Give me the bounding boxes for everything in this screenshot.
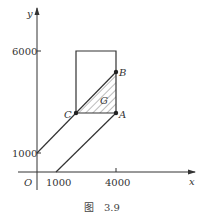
x-axis-label: x bbox=[189, 176, 195, 187]
point-c bbox=[74, 111, 78, 115]
point-b bbox=[114, 70, 118, 74]
figure-caption-prefix: 图 bbox=[84, 202, 94, 213]
figure-caption-number: 3.9 bbox=[104, 202, 120, 213]
point-label-b: B bbox=[118, 67, 126, 78]
point-a bbox=[114, 111, 118, 115]
point-label-a: A bbox=[118, 109, 126, 120]
diagram-canvas: y x O 6000 1000 1000 4000 A B C G 图 3.9 bbox=[0, 0, 203, 217]
x-tick-label-1000: 1000 bbox=[46, 177, 71, 188]
origin-label: O bbox=[24, 177, 32, 188]
point-label-c: C bbox=[64, 109, 72, 120]
x-tick-label-4000: 4000 bbox=[105, 177, 130, 188]
region-label-g: G bbox=[100, 95, 108, 106]
y-tick-label-6000: 6000 bbox=[12, 46, 37, 57]
line-through-a bbox=[56, 113, 116, 172]
y-axis-label: y bbox=[26, 8, 33, 19]
y-tick-label-1000: 1000 bbox=[12, 148, 37, 159]
